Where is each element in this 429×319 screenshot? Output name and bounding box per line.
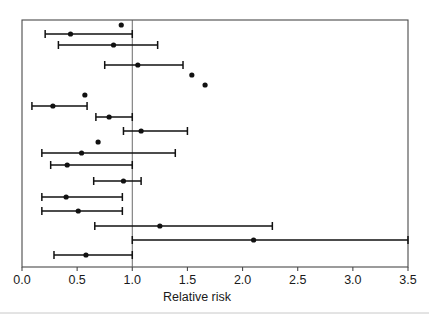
estimate-point-marker (139, 128, 144, 133)
estimate-point-marker (202, 82, 207, 87)
forest-row (82, 92, 87, 97)
figure-background (0, 0, 429, 319)
x-axis-title: Relative risk (163, 290, 232, 304)
estimate-point-marker (83, 252, 88, 257)
x-axis-tick-label: 1.5 (179, 273, 196, 287)
estimate-point-marker (107, 114, 112, 119)
estimate-point-marker (111, 42, 116, 47)
x-axis-tick-label: 3.5 (399, 273, 416, 287)
x-axis-tick-label: 3.0 (344, 273, 361, 287)
estimate-point-marker (251, 237, 256, 242)
estimate-point-marker (79, 150, 84, 155)
estimate-point-marker (82, 92, 87, 97)
forest-row (189, 72, 194, 77)
x-axis-tick-label: 2.5 (289, 273, 306, 287)
x-axis-tick-label: 1.0 (124, 273, 141, 287)
forest-row (202, 82, 207, 87)
forest-row (95, 139, 100, 144)
estimate-point-marker (121, 178, 126, 183)
estimate-point-marker (68, 31, 73, 36)
estimate-point-marker (76, 208, 81, 213)
x-axis-tick-label: 2.0 (234, 273, 251, 287)
x-axis-tick-label: 0.0 (13, 273, 30, 287)
forest-row (119, 22, 124, 27)
estimate-point-marker (64, 194, 69, 199)
forest-plot-svg: 0.00.51.01.52.02.53.03.5Relative risk (0, 0, 429, 319)
estimate-point-marker (135, 62, 140, 67)
estimate-point-marker (95, 139, 100, 144)
estimate-point-marker (65, 162, 70, 167)
forest-plot-figure: 0.00.51.01.52.02.53.03.5Relative risk (0, 0, 429, 319)
x-axis-tick-label: 0.5 (68, 273, 85, 287)
estimate-point-marker (119, 22, 124, 27)
estimate-point-marker (189, 72, 194, 77)
estimate-point-marker (50, 103, 55, 108)
estimate-point-marker (157, 223, 162, 228)
